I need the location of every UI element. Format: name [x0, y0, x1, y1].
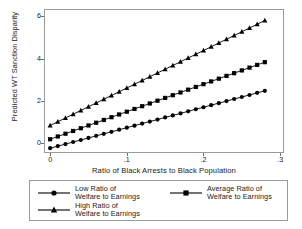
data-point — [155, 117, 159, 121]
data-point — [217, 77, 221, 81]
data-point — [171, 113, 175, 117]
data-point — [209, 103, 213, 107]
data-point — [55, 119, 60, 124]
y-tick-mark — [41, 143, 44, 144]
data-point — [240, 95, 244, 99]
plot-series-svg — [44, 9, 284, 153]
data-point — [79, 138, 83, 142]
data-point — [178, 90, 182, 94]
data-point — [232, 97, 236, 101]
data-point — [262, 18, 267, 23]
x-axis-label: Ratio of Black Arrests to Black Populati… — [44, 166, 284, 175]
data-point — [132, 124, 136, 128]
x-tick-label: .1 — [124, 156, 130, 163]
data-point — [163, 67, 168, 72]
legend-item-low: Low Ratio of Welfare to Earnings — [37, 185, 140, 202]
data-point — [125, 126, 129, 130]
data-point — [247, 25, 252, 30]
y-tick-label: 6 — [37, 13, 41, 20]
data-point — [48, 146, 52, 150]
data-point — [263, 60, 267, 64]
data-point — [140, 104, 144, 108]
data-point — [109, 130, 113, 134]
data-point — [155, 70, 160, 75]
data-point — [101, 97, 106, 102]
data-point — [63, 132, 67, 136]
data-point — [224, 37, 229, 42]
data-point — [224, 99, 228, 103]
data-point — [171, 93, 175, 97]
data-point — [255, 22, 260, 27]
series-circle — [48, 89, 267, 150]
data-point — [109, 115, 113, 119]
data-point — [224, 74, 228, 78]
data-point — [201, 48, 206, 53]
data-point — [247, 66, 251, 70]
data-point — [102, 132, 106, 136]
data-point — [86, 123, 90, 127]
y-tick-label: 2 — [37, 98, 41, 105]
data-point — [102, 118, 106, 122]
data-point — [132, 107, 136, 111]
data-point — [71, 129, 75, 133]
data-point — [209, 79, 213, 83]
data-point — [71, 140, 75, 144]
legend-item-high: High Ratio of Welfare to Earnings — [37, 202, 140, 219]
data-point — [148, 101, 152, 105]
data-point — [201, 82, 205, 86]
y-axis-label: Predicted WT Sanction Disparity — [10, 0, 19, 142]
legend: Low Ratio of Welfare to Earnings Average… — [29, 180, 288, 221]
legend-key-square-icon — [169, 187, 203, 199]
data-point — [117, 112, 121, 116]
data-point — [48, 123, 53, 128]
data-point — [125, 110, 129, 114]
data-point — [170, 63, 175, 68]
y-tick-mark — [41, 59, 44, 60]
data-point — [255, 63, 259, 67]
data-point — [56, 144, 60, 148]
y-tick-mark — [41, 101, 44, 102]
data-point — [163, 96, 167, 100]
data-point — [209, 44, 214, 49]
chart-figure: 0246 0.1.2.3 Predicted WT Sanction Dispa… — [0, 0, 302, 229]
legend-label-average: Average Ratio of Welfare to Earnings — [207, 185, 272, 202]
data-point — [178, 59, 183, 64]
data-point — [132, 82, 137, 87]
data-point — [155, 99, 159, 103]
data-point — [94, 134, 98, 138]
data-point — [86, 104, 91, 109]
legend-label-low: Low Ratio of Welfare to Earnings — [75, 185, 140, 202]
data-point — [71, 112, 76, 117]
legend-item-average: Average Ratio of Welfare to Earnings — [169, 185, 272, 202]
data-point — [117, 89, 122, 94]
data-point — [194, 85, 198, 89]
data-point — [56, 134, 60, 138]
data-point — [201, 105, 205, 109]
data-point — [194, 107, 198, 111]
data-point — [186, 88, 190, 92]
data-point — [78, 108, 83, 113]
data-point — [163, 115, 167, 119]
x-tick-label: 0 — [48, 156, 52, 163]
data-point — [247, 93, 251, 97]
x-tick-label: .2 — [200, 156, 206, 163]
data-point — [86, 136, 90, 140]
data-point — [178, 111, 182, 115]
data-point — [147, 74, 152, 79]
y-tick-label: 4 — [37, 55, 41, 62]
data-point — [140, 78, 145, 83]
data-point — [186, 55, 191, 60]
data-point — [140, 121, 144, 125]
data-point — [94, 121, 98, 125]
data-point — [63, 142, 67, 146]
legend-key-circle-icon — [37, 187, 71, 199]
data-point — [186, 109, 190, 113]
data-point — [240, 68, 244, 72]
data-point — [63, 115, 68, 120]
legend-label-high: High Ratio of Welfare to Earnings — [75, 202, 140, 219]
data-point — [193, 52, 198, 57]
data-point — [255, 91, 259, 95]
data-point — [239, 29, 244, 34]
y-tick-mark — [41, 16, 44, 17]
data-point — [148, 119, 152, 123]
